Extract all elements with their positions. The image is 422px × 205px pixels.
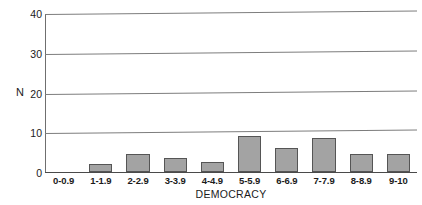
bar-slot [380, 14, 417, 172]
y-tick-label: 30 [20, 48, 42, 60]
bar [350, 154, 373, 172]
x-tick-label: 7-7.9 [305, 175, 342, 186]
bar [275, 148, 298, 172]
x-tick-label: 1-1.9 [82, 175, 119, 186]
bar-slot [231, 14, 268, 172]
y-tick-label: 20 [20, 88, 42, 100]
bar [312, 138, 335, 172]
bar [387, 154, 410, 172]
bar-slot [119, 14, 156, 172]
x-axis-line [45, 172, 417, 173]
bar-slot [343, 14, 380, 172]
plot-area [45, 14, 417, 173]
x-tick-label: 8-8.9 [343, 175, 380, 186]
x-axis-tick-labels: 0-0.9 1-1.9 2-2.9 3-3.9 4-4.9 5-5.9 6-6.… [45, 175, 417, 186]
bar [164, 158, 187, 172]
y-axis-tick-labels: 40 30 20 10 0 [10, 0, 42, 205]
x-tick-label: 0-0.9 [45, 175, 82, 186]
x-tick-label: 3-3.9 [157, 175, 194, 186]
x-tick-label: 2-2.9 [119, 175, 156, 186]
bar-slot [82, 14, 119, 172]
x-tick-label: 4-4.9 [194, 175, 231, 186]
bar [201, 162, 224, 172]
x-tick-label: 6-6.9 [268, 175, 305, 186]
bar [89, 164, 112, 172]
bar-slot [305, 14, 342, 172]
bar-chart: N 40 30 20 10 0 0-0.9 1-1.9 2-2.9 [0, 0, 422, 205]
x-tick-label: 9-10 [380, 175, 417, 186]
y-tick-label: 10 [20, 127, 42, 139]
bar [238, 136, 261, 172]
y-tick-label: 40 [20, 8, 42, 20]
x-axis-label: DEMOCRACY [45, 188, 417, 200]
y-tick-label: 0 [20, 167, 42, 179]
bar-slot [194, 14, 231, 172]
bar-slot [45, 14, 82, 172]
bar-series [45, 14, 417, 172]
bar [126, 154, 149, 172]
bar-slot [157, 14, 194, 172]
bar-slot [268, 14, 305, 172]
x-tick-label: 5-5.9 [231, 175, 268, 186]
